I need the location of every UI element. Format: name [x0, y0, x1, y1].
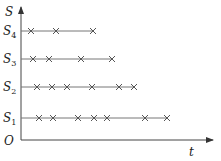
y-axis-label: S — [5, 5, 13, 19]
state-rows: S4S3S2S1 — [3, 24, 170, 127]
state-row-1: S1 — [3, 111, 170, 127]
state-label: S2 — [3, 80, 16, 96]
state-label: S3 — [3, 52, 16, 68]
state-row-3: S3 — [3, 52, 115, 68]
state-label: S4 — [3, 24, 16, 40]
state-row-2: S2 — [3, 80, 137, 96]
state-row-4: S4 — [3, 24, 96, 40]
state-label: S1 — [3, 111, 16, 127]
x-axis-label: t — [189, 145, 194, 159]
origin-label: O — [4, 134, 14, 148]
event-timeline-diagram: S t O S4S3S2S1 — [0, 0, 221, 161]
